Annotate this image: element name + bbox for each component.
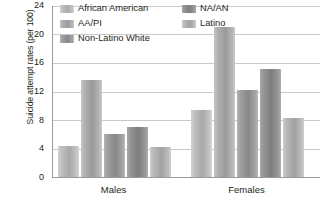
y-tick-label-4: 4 (20, 144, 44, 153)
legend-swatch-icon-na-an (182, 5, 196, 13)
legend-label: Non-Latino White (78, 34, 150, 43)
bar-males-na-an (127, 127, 148, 177)
bar-males-aa-pi (81, 80, 102, 177)
y-tick-label-20: 20 (20, 30, 44, 39)
legend-item-non-latino-white[interactable]: Non-Latino White (60, 34, 150, 43)
legend-label: NA/AN (200, 4, 228, 13)
legend-label: African American (78, 4, 148, 13)
bar-females-african-american (191, 110, 212, 177)
legend-swatch-icon-african-american (60, 5, 74, 13)
y-tick-label-16: 16 (20, 58, 44, 67)
bar-females-latino (283, 118, 304, 177)
x-group-label-males: Males (57, 184, 170, 195)
bar-males-non-latino-white (104, 134, 125, 177)
x-group-label-females: Females (190, 184, 303, 195)
y-tick-label-0: 0 (20, 173, 44, 182)
y-axis-title: Suicide attempt rates (per 100) (25, 0, 35, 147)
y-tick-label-24: 24 (20, 1, 44, 10)
legend-item-aa-pi[interactable]: AA/PI (60, 19, 102, 28)
bar-chart: Suicide attempt rates (per 100) 04812162… (0, 0, 325, 215)
bar-females-aa-pi (214, 27, 235, 178)
legend-label: Latino (200, 19, 225, 28)
bar-females-non-latino-white (237, 90, 258, 177)
legend-item-na-an[interactable]: NA/AN (182, 4, 228, 13)
bar-males-latino (150, 147, 171, 177)
legend-item-latino[interactable]: Latino (182, 19, 225, 28)
bar-females-na-an (260, 69, 281, 177)
y-tick-label-12: 12 (20, 87, 44, 96)
gridline-16 (53, 63, 320, 64)
legend-swatch-icon-aa-pi (60, 20, 74, 28)
y-tick-label-8: 8 (20, 116, 44, 125)
legend-item-african-american[interactable]: African American (60, 4, 148, 13)
legend-label: AA/PI (78, 19, 102, 28)
legend-swatch-icon-latino (182, 20, 196, 28)
chart-legend: African AmericanAA/PINon-Latino WhiteNA/… (60, 4, 295, 48)
bar-males-african-american (58, 146, 79, 177)
legend-swatch-icon-non-latino-white (60, 35, 74, 43)
